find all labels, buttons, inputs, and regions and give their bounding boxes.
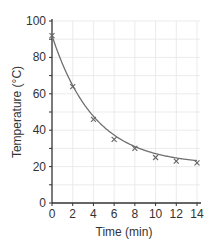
x-axis-label: Time (min) [96, 225, 153, 239]
grid-lines [52, 21, 200, 203]
x-tick-label: 4 [90, 207, 97, 221]
y-tick-label: 80 [33, 50, 47, 64]
y-tick-label: 0 [39, 196, 46, 210]
cooling-curve-chart: 02040608010002468101214 Time (min) Tempe… [0, 0, 216, 248]
x-tick-label: 0 [49, 207, 56, 221]
y-tick-label: 60 [33, 87, 47, 101]
x-tick-label: 8 [132, 207, 139, 221]
fit-curve [52, 36, 197, 161]
y-axis-label: Temperature (°C) [10, 66, 24, 158]
y-tick-label: 100 [26, 14, 46, 28]
x-tick-label: 2 [69, 207, 76, 221]
y-tick-label: 20 [33, 160, 47, 174]
x-tick-label: 6 [111, 207, 118, 221]
y-tick-label: 40 [33, 123, 47, 137]
x-tick-label: 14 [190, 207, 204, 221]
axes: 02040608010002468101214 [26, 14, 204, 221]
data-points [50, 33, 200, 165]
x-tick-label: 12 [170, 207, 184, 221]
x-tick-label: 10 [149, 207, 163, 221]
